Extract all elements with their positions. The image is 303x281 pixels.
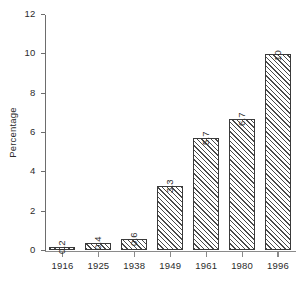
y-tick-mark: [41, 171, 45, 172]
x-tick-mark: [206, 252, 207, 257]
x-tick-mark: [277, 252, 278, 257]
y-tick-mark: [41, 250, 45, 251]
y-tick-label: 0: [3, 245, 36, 255]
bar-value-label: 6.7: [236, 112, 247, 126]
y-tick-label: 6: [3, 127, 36, 137]
y-tick-label: 8: [3, 88, 36, 98]
x-tick-mark: [242, 252, 243, 257]
y-tick-mark: [41, 132, 45, 133]
bar: [193, 138, 219, 250]
x-tick-mark: [134, 252, 135, 257]
y-tick-mark: [41, 211, 45, 212]
bar-value-label: 3.3: [164, 179, 175, 193]
bar: [265, 54, 291, 251]
bar-chart: Percentage 024681012 1916192519381949196…: [0, 0, 303, 281]
y-tick-label: 10: [3, 48, 36, 58]
bar-value-label: 0.6: [128, 232, 139, 246]
y-tick-mark: [41, 53, 45, 54]
y-tick-label: 4: [3, 166, 36, 176]
bar-value-label: 0.4: [92, 236, 103, 250]
y-tick-label: 12: [3, 9, 36, 19]
y-tick-label: 2: [3, 206, 36, 216]
bar: [229, 119, 255, 251]
bar-value-label: 10: [272, 50, 283, 61]
bar-value-label: 0.2: [56, 240, 67, 254]
x-tick-mark: [98, 252, 99, 257]
y-tick-mark: [41, 14, 45, 15]
bar: [157, 186, 183, 251]
x-tick-mark: [170, 252, 171, 257]
y-tick-mark: [41, 93, 45, 94]
x-tick-label: 1996: [256, 261, 300, 271]
bar-value-label: 5.7: [200, 132, 211, 146]
